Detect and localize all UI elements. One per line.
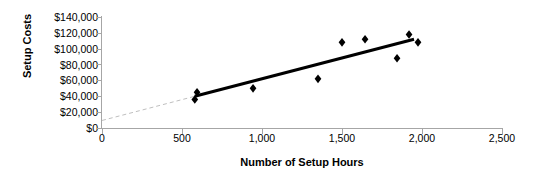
data-point-marker: [250, 84, 257, 93]
data-point-marker: [362, 35, 369, 44]
data-point-marker: [315, 75, 322, 84]
extrapolated-dashed-segment: [102, 96, 195, 120]
data-point-marker: [339, 38, 346, 47]
data-series-layer: [102, 30, 421, 120]
plot-canvas: [0, 0, 541, 182]
data-point-marker: [415, 38, 422, 47]
data-point-marker: [406, 30, 413, 39]
data-point-marker: [394, 54, 401, 63]
scatter-chart: Setup Costs $140,000 $120,000 $100,000 $…: [0, 0, 541, 182]
regression-line: [195, 39, 414, 96]
